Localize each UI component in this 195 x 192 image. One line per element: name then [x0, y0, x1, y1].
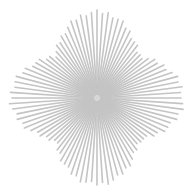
- starburst-graphic: [0, 0, 195, 192]
